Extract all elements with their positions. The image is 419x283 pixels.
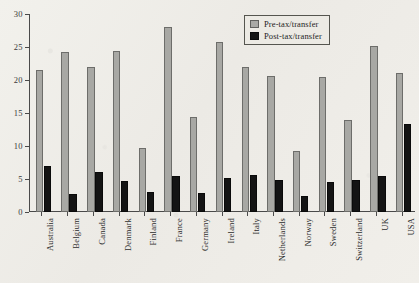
x-axis-label-usa: USA xyxy=(406,218,416,236)
x-axis-label-belgium: Belgium xyxy=(71,218,81,249)
y-axis-tick xyxy=(25,113,29,114)
bar-netherlands-pre-tax xyxy=(267,76,274,212)
y-axis-tick xyxy=(25,146,29,147)
bar-denmark-pre-tax xyxy=(113,51,120,212)
x-axis-label-italy: Italy xyxy=(251,218,261,235)
bar-finland-pre-tax xyxy=(139,148,146,212)
x-axis-label-finland: Finland xyxy=(148,218,158,245)
bar-belgium-post-tax xyxy=(69,194,76,212)
y-axis-line xyxy=(29,14,30,212)
y-axis-tick xyxy=(25,212,29,213)
bar-canada-pre-tax xyxy=(87,67,94,212)
plot-area: 051015202530 xyxy=(29,14,415,212)
bar-italy-pre-tax xyxy=(242,67,249,212)
x-axis-label-denmark: Denmark xyxy=(123,218,133,251)
y-axis-tick xyxy=(25,80,29,81)
bar-germany-pre-tax xyxy=(190,117,197,212)
legend-swatch-post-tax-icon xyxy=(250,32,259,40)
legend-item-pre-tax: Pre-tax/transfer xyxy=(250,19,322,29)
y-axis-tick-label: 30 xyxy=(14,9,23,19)
bar-australia-pre-tax xyxy=(36,70,43,212)
y-axis-tick-label: 20 xyxy=(14,75,23,85)
bar-usa-pre-tax xyxy=(396,73,403,212)
y-axis-tick-label: 5 xyxy=(18,174,23,184)
bar-norway-post-tax xyxy=(301,196,308,213)
bar-denmark-post-tax xyxy=(121,181,128,212)
y-axis-tick-label: 15 xyxy=(14,108,23,118)
legend-label-post-tax: Post-tax/transfer xyxy=(264,31,322,41)
x-axis-label-uk: UK xyxy=(380,218,390,231)
bar-uk-pre-tax xyxy=(370,46,377,212)
bar-france-pre-tax xyxy=(164,27,171,212)
x-axis-label-switzerland: Switzerland xyxy=(354,218,364,261)
x-axis-label-sweden: Sweden xyxy=(328,218,338,246)
bar-norway-pre-tax xyxy=(293,151,300,212)
bar-canada-post-tax xyxy=(95,172,102,212)
bar-netherlands-post-tax xyxy=(275,180,282,212)
bar-finland-post-tax xyxy=(147,192,154,212)
bar-sweden-post-tax xyxy=(327,182,334,212)
bar-switzerland-pre-tax xyxy=(344,120,351,212)
bar-uk-post-tax xyxy=(378,176,385,212)
x-axis-label-france: France xyxy=(174,218,184,242)
y-axis-tick xyxy=(25,179,29,180)
legend-label-pre-tax: Pre-tax/transfer xyxy=(264,19,318,29)
bar-switzerland-post-tax xyxy=(352,180,359,212)
bar-france-post-tax xyxy=(172,176,179,212)
legend-item-post-tax: Post-tax/transfer xyxy=(250,31,322,41)
x-axis-label-netherlands: Netherlands xyxy=(277,218,287,261)
legend-swatch-pre-tax-icon xyxy=(250,20,259,28)
bar-australia-post-tax xyxy=(44,166,51,212)
x-axis-label-ireland: Ireland xyxy=(226,218,236,243)
x-axis-label-canada: Canada xyxy=(97,218,107,245)
bar-ireland-post-tax xyxy=(224,178,231,212)
bar-usa-post-tax xyxy=(404,124,411,212)
y-axis-tick xyxy=(25,14,29,15)
bar-chart: 051015202530 AustraliaBelgiumCanadaDenma… xyxy=(0,0,419,283)
bar-ireland-pre-tax xyxy=(216,42,223,212)
x-axis-label-australia: Australia xyxy=(45,218,55,251)
x-axis-label-norway: Norway xyxy=(303,218,313,247)
y-axis-tick-label: 10 xyxy=(14,141,23,151)
bar-sweden-pre-tax xyxy=(319,77,326,212)
bar-italy-post-tax xyxy=(250,175,257,212)
bar-germany-post-tax xyxy=(198,193,205,212)
x-axis-label-germany: Germany xyxy=(200,218,210,251)
y-axis-tick xyxy=(25,47,29,48)
y-axis-tick-label: 25 xyxy=(14,42,23,52)
y-axis-tick-label: 0 xyxy=(18,207,23,217)
bar-belgium-pre-tax xyxy=(61,52,68,212)
chart-legend: Pre-tax/transfer Post-tax/transfer xyxy=(244,15,330,45)
x-axis-category-labels: AustraliaBelgiumCanadaDenmarkFinlandFran… xyxy=(29,216,415,283)
